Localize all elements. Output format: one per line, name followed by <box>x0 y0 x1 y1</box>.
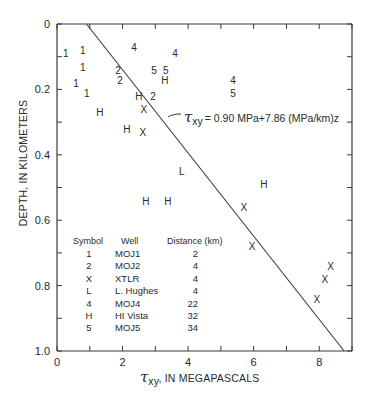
y-tick-label: 0.6 <box>35 214 50 226</box>
data-point-x: X <box>321 274 328 285</box>
legend-symbol: H <box>86 310 93 321</box>
legend-well: MOJ4 <box>115 298 140 309</box>
svg-text:τxy= 0.90 MPa+7.86 (MPa/km)z: τxy= 0.90 MPa+7.86 (MPa/km)z <box>184 108 339 127</box>
axis-tick-labels: 0246800.20.40.60.81.0 <box>35 18 323 368</box>
data-point-5: 5 <box>163 65 169 76</box>
legend: Symbol Well Distance (km) 1MOJ122MOJ24XX… <box>73 236 223 333</box>
data-point-x: X <box>240 202 247 213</box>
y-tick-label: 0.2 <box>35 83 50 95</box>
x-tick-label: 8 <box>316 356 322 368</box>
legend-distance: 22 <box>187 298 198 309</box>
legend-header-symbol: Symbol <box>73 236 103 246</box>
y-tick-label: 0 <box>44 18 50 30</box>
data-point-1: 1 <box>63 48 69 59</box>
x-tick-label: 6 <box>251 356 257 368</box>
legend-symbol: 4 <box>86 298 91 309</box>
legend-distance: 34 <box>187 322 198 333</box>
legend-header-well: Well <box>121 236 138 246</box>
data-point-x: X <box>141 104 148 115</box>
legend-well: MOJ1 <box>115 248 140 259</box>
plot-frame <box>57 24 352 351</box>
stress-depth-chart: 0246800.20.40.60.81.0 11111222XXXXXXXL44… <box>0 0 369 411</box>
legend-symbol: X <box>86 273 93 284</box>
legend-well: MOJ5 <box>115 322 140 333</box>
data-point-5: 5 <box>151 65 157 76</box>
equation-text: = 0.90 MPa+7.86 (MPa/km)z <box>205 112 339 124</box>
fit-equation-annotation: τxy= 0.90 MPa+7.86 (MPa/km)z <box>168 108 339 127</box>
legend-distance: 4 <box>193 260 198 271</box>
data-point-h: H <box>96 107 103 118</box>
data-point-x: X <box>314 294 321 305</box>
x-axis-title-rest: , IN MEGAPASCALS <box>158 372 259 384</box>
legend-distance: 32 <box>187 310 198 321</box>
tau-subscript: xy <box>192 115 203 127</box>
data-point-h: H <box>260 179 267 190</box>
legend-well: XTLR <box>115 273 139 284</box>
legend-distance: 4 <box>193 285 198 296</box>
data-point-x: X <box>140 127 147 138</box>
data-point-1: 1 <box>80 45 86 56</box>
data-point-4: 4 <box>230 75 236 86</box>
y-tick-label: 1.0 <box>35 345 50 357</box>
x-tick-label: 0 <box>54 356 60 368</box>
legend-symbol: 1 <box>86 248 91 259</box>
legend-distance: 2 <box>193 248 198 259</box>
legend-symbol: 5 <box>86 322 91 333</box>
data-point-h: H <box>123 124 130 135</box>
legend-well: L. Hughes <box>115 285 159 296</box>
x-tick-label: 2 <box>119 356 125 368</box>
data-point-l: L <box>179 166 185 177</box>
data-point-h: H <box>164 196 171 207</box>
data-point-h: H <box>142 196 149 207</box>
data-point-h: H <box>161 75 168 86</box>
data-points: 11111222XXXXXXXL444HHHHHHH555 <box>63 42 334 305</box>
legend-well: HI Vista <box>115 310 149 321</box>
data-point-2: 2 <box>117 75 123 86</box>
legend-symbol: 2 <box>86 260 91 271</box>
y-tick-label: 0.8 <box>35 280 50 292</box>
y-tick-label: 0.4 <box>35 149 50 161</box>
data-point-x: X <box>327 261 334 272</box>
legend-distance: 4 <box>193 273 198 284</box>
legend-well: MOJ2 <box>115 260 140 271</box>
axis-ticks <box>57 24 352 351</box>
data-point-4: 4 <box>131 42 137 53</box>
data-point-4: 4 <box>172 48 178 59</box>
data-point-1: 1 <box>84 88 90 99</box>
legend-header-distance: Distance (km) <box>167 236 223 246</box>
y-axis-title: DEPTH, IN KILOMETERS <box>17 100 29 227</box>
data-point-1: 1 <box>80 62 86 73</box>
x-tick-label: 4 <box>185 356 191 368</box>
x-axis-title: τxy, IN MEGAPASCALS <box>140 368 259 387</box>
legend-symbol: L <box>86 285 91 296</box>
data-point-2: 2 <box>150 91 156 102</box>
data-point-5: 5 <box>230 88 236 99</box>
data-point-h: H <box>135 91 142 102</box>
data-point-x: X <box>249 241 256 252</box>
data-point-1: 1 <box>73 78 79 89</box>
